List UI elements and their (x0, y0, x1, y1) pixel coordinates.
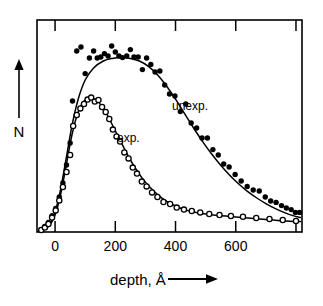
data-point (257, 188, 262, 193)
data-point (71, 123, 76, 128)
data-point (189, 208, 194, 213)
data-point (130, 165, 135, 170)
data-point (87, 55, 92, 60)
data-point (140, 67, 145, 72)
data-point (144, 55, 149, 60)
data-point (238, 178, 243, 183)
data-point (263, 194, 268, 199)
data-point (210, 147, 215, 152)
data-point (254, 215, 259, 220)
x-tick-label: 0 (35, 238, 75, 254)
data-point (162, 82, 167, 87)
data-point (82, 71, 87, 76)
data-point (228, 213, 233, 218)
data-point (64, 169, 69, 174)
data-point (293, 218, 298, 223)
bottom-axis-ticks (55, 221, 296, 232)
data-point (74, 112, 79, 117)
data-point (198, 210, 203, 215)
data-point (188, 120, 193, 125)
data-point (67, 140, 72, 145)
data-point (284, 205, 289, 210)
scientific-figure: N unexp. exp. 0200400600 depth, Å (0, 0, 323, 306)
data-point (124, 53, 129, 58)
data-point (134, 171, 139, 176)
data-point (194, 125, 199, 130)
data-point (148, 62, 153, 67)
data-point (74, 48, 79, 53)
datapoints-exp (39, 95, 299, 233)
data-point (91, 48, 96, 53)
data-point (149, 190, 154, 195)
data-point (144, 184, 149, 189)
x-axis-label-group: depth, Å (110, 266, 219, 292)
data-point (174, 205, 179, 210)
data-point (161, 199, 166, 204)
data-point (155, 194, 160, 199)
data-point (68, 152, 73, 157)
data-point (244, 184, 249, 189)
data-point (60, 184, 65, 189)
data-point (139, 179, 144, 184)
data-point (267, 216, 272, 221)
data-point (46, 221, 51, 226)
data-point (64, 162, 69, 167)
data-point (273, 200, 278, 205)
x-axis-label: depth, Å (110, 271, 166, 288)
data-point (157, 68, 162, 73)
data-point (207, 211, 212, 216)
data-point (128, 47, 133, 52)
data-point (53, 208, 58, 213)
data-point (181, 207, 186, 212)
plot-area (0, 0, 323, 306)
series-label-unexp: unexp. (172, 99, 208, 113)
data-point (297, 210, 302, 215)
right-arrow-icon (167, 272, 219, 286)
data-point (168, 201, 173, 206)
x-tick-label: 400 (156, 238, 196, 254)
data-point (251, 187, 256, 192)
data-point (103, 109, 108, 114)
data-point (205, 135, 210, 140)
data-point (280, 217, 285, 222)
data-point (126, 156, 131, 161)
top-axis-ticks (55, 20, 296, 31)
data-point (122, 150, 127, 155)
data-point (70, 98, 75, 103)
x-tick-label: 200 (95, 238, 135, 254)
data-point (199, 135, 204, 140)
data-point (113, 49, 118, 54)
curve-exp (42, 98, 300, 230)
data-point (105, 53, 110, 58)
series-label-exp: exp. (117, 131, 140, 145)
data-point (226, 164, 231, 169)
data-point (99, 104, 104, 109)
data-point (216, 152, 221, 157)
data-point (268, 198, 273, 203)
data-point (110, 127, 115, 132)
data-point (107, 116, 112, 121)
data-point (135, 54, 140, 59)
data-point (152, 69, 157, 74)
data-point (78, 44, 83, 49)
x-tick-label: 600 (216, 238, 256, 254)
data-point (96, 97, 101, 102)
data-point (279, 203, 284, 208)
data-point (172, 93, 177, 98)
data-point (109, 43, 114, 48)
data-point (49, 215, 54, 220)
data-point (167, 91, 172, 96)
data-point (217, 212, 222, 217)
data-point (240, 214, 245, 219)
data-point (232, 172, 237, 177)
data-point (221, 161, 226, 166)
data-point (57, 198, 62, 203)
